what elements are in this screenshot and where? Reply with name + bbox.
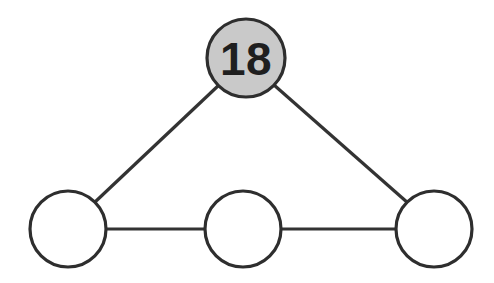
graph-svg: 18 [0,0,494,283]
node-circle-bottom-left[interactable] [30,191,106,267]
node-circle-bottom-middle[interactable] [205,191,281,267]
edge-top-to-bottom-right [274,85,408,203]
node-circle-bottom-right[interactable] [396,191,472,267]
node-bottom-right[interactable] [396,191,472,267]
diagram-canvas: 18 [0,0,494,283]
node-group: 18 [30,19,472,267]
node-bottom-middle[interactable] [205,191,281,267]
edge-bottom-left-to-top [95,85,219,202]
node-bottom-left[interactable] [30,191,106,267]
node-label-top: 18 [220,33,272,85]
node-top[interactable]: 18 [207,19,285,97]
